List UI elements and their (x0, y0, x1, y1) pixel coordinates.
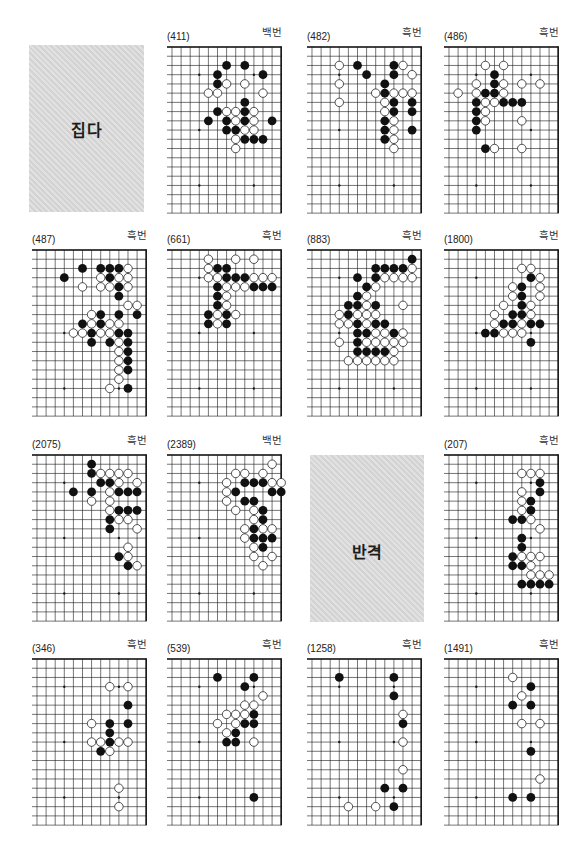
white-stone (527, 264, 535, 272)
problem-number: (486) (444, 31, 467, 42)
white-stone (371, 338, 379, 346)
white-stone (335, 61, 343, 69)
black-stone (389, 329, 398, 338)
white-stone (115, 515, 123, 523)
black-stone (124, 347, 133, 356)
white-stone (490, 320, 498, 328)
black-stone (96, 264, 105, 273)
white-stone (508, 283, 516, 291)
white-stone (241, 701, 249, 709)
go-board (167, 658, 283, 827)
black-stone (124, 506, 133, 515)
white-stone (381, 329, 389, 337)
star-point (475, 592, 477, 594)
black-stone (249, 497, 258, 506)
black-stone (536, 478, 545, 487)
white-stone (499, 89, 507, 97)
white-stone (231, 144, 239, 152)
problem-cell: (487) 흑번 (32, 230, 150, 420)
white-stone (250, 273, 258, 281)
black-stone (124, 338, 133, 347)
go-board (167, 46, 283, 215)
black-stone (213, 673, 222, 682)
white-stone (259, 525, 267, 533)
black-stone (133, 310, 142, 319)
white-stone (241, 710, 249, 718)
black-stone (353, 329, 362, 338)
white-stone (222, 80, 230, 88)
black-stone (259, 506, 268, 515)
black-stone (105, 338, 114, 347)
black-stone (105, 273, 114, 282)
black-stone (490, 89, 499, 98)
black-stone (362, 329, 371, 338)
white-stone (259, 692, 267, 700)
black-stone (240, 719, 249, 728)
white-stone (399, 273, 407, 281)
black-stone (249, 534, 258, 543)
black-stone (389, 673, 398, 682)
star-point (530, 592, 532, 594)
black-stone (362, 283, 371, 292)
black-stone (517, 534, 526, 543)
star-point (198, 276, 200, 278)
problem-number: (482) (307, 31, 330, 42)
white-stone (399, 710, 407, 718)
black-stone (389, 61, 398, 70)
white-stone (536, 775, 544, 783)
white-stone (408, 70, 416, 78)
black-stone (472, 98, 481, 107)
black-stone (380, 80, 389, 89)
star-point (63, 592, 65, 594)
black-stone (204, 116, 213, 125)
star-point (63, 537, 65, 539)
white-stone (499, 329, 507, 337)
white-stone (259, 89, 267, 97)
section-box-capture: 집다 (29, 45, 144, 212)
white-stone (536, 571, 544, 579)
star-point (118, 387, 120, 389)
star-point (118, 685, 120, 687)
white-stone (545, 571, 553, 579)
white-stone (371, 802, 379, 810)
black-stone (124, 329, 133, 338)
white-stone (399, 301, 407, 309)
black-stone (408, 98, 417, 107)
white-stone (250, 543, 258, 551)
white-stone (518, 264, 526, 272)
go-board (32, 249, 148, 418)
black-stone (213, 292, 222, 301)
problem-cell: (883) 흑번 (307, 230, 425, 420)
black-stone (124, 384, 133, 393)
grid (444, 659, 558, 825)
problem-number: (883) (307, 234, 330, 245)
white-stone (78, 329, 86, 337)
star-point (475, 741, 477, 743)
turn-to-play: 백번 (262, 26, 282, 38)
black-stone (508, 98, 517, 107)
black-stone (124, 561, 133, 570)
white-stone (390, 135, 398, 143)
turn-to-play: 흑번 (262, 229, 282, 241)
black-stone (353, 319, 362, 328)
white-stone (124, 273, 132, 281)
black-stone (268, 283, 277, 292)
black-stone (69, 488, 78, 497)
black-stone (526, 682, 535, 691)
turn-to-play: 흑번 (127, 638, 147, 650)
turn-to-play: 흑번 (402, 229, 422, 241)
black-stone (249, 793, 258, 802)
white-stone (231, 107, 239, 115)
star-point (198, 481, 200, 483)
star-point (338, 184, 340, 186)
white-stone (204, 255, 212, 263)
black-stone (526, 497, 535, 506)
star-point (338, 276, 340, 278)
black-stone (353, 338, 362, 347)
white-stone (241, 534, 249, 542)
problem-number: (539) (167, 643, 190, 654)
black-stone (517, 543, 526, 552)
star-point (530, 129, 532, 131)
black-stone (517, 515, 526, 524)
white-stone (222, 497, 230, 505)
